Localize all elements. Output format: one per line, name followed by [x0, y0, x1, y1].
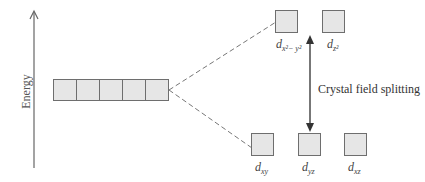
- orbital-label-dxz: dxz: [348, 161, 361, 176]
- dashed-connectors: [169, 22, 276, 148]
- degenerate-orbital-box: [99, 79, 123, 101]
- degenerate-orbital-box: [122, 79, 146, 101]
- orbital-box-dxz: [344, 133, 367, 156]
- orbital-box-dyz: [298, 133, 321, 156]
- energy-axis-label: Energy: [19, 72, 34, 112]
- orbital-box-dxy: [251, 133, 274, 156]
- crystal-field-diagram: Energy dx²− y² dz² Crystal field splitti…: [0, 0, 425, 182]
- orbital-label-dxy: dxy: [255, 161, 268, 176]
- orbital-label-dyz: dyz: [302, 161, 315, 176]
- orbital-label-dx2-y2: dx²− y²: [276, 38, 301, 53]
- orbital-box-dz2: [322, 10, 345, 33]
- orbital-box-dx2-y2: [275, 10, 298, 33]
- degenerate-orbital-box: [53, 79, 77, 101]
- crystal-field-splitting-label: Crystal field splitting: [318, 82, 420, 97]
- degenerate-orbital-box: [145, 79, 169, 101]
- splitting-arrow-icon: [306, 35, 314, 132]
- degenerate-orbital-box: [76, 79, 100, 101]
- orbital-label-dz2: dz²: [327, 38, 339, 53]
